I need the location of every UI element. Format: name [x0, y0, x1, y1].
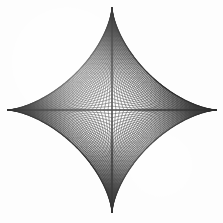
astroid-grid-figure: Astroid curvilinear grid Four-cusped sta…: [0, 0, 223, 223]
figure-canvas: Astroid curvilinear grid Four-cusped sta…: [0, 0, 223, 223]
